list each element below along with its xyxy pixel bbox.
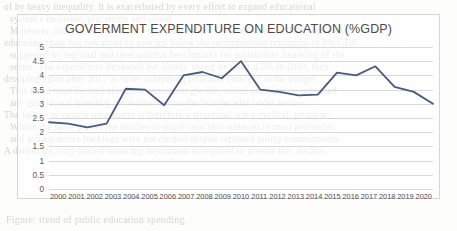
x-axis-tick-label: 2008 [195,191,213,205]
x-axis-tick-label: 2017 [360,191,378,205]
x-axis-tick-label: 2002 [86,191,104,205]
x-axis-tick-label: 2019 [396,191,414,205]
x-axis-tick-label: 2005 [140,191,158,205]
y-axis-tick-label: 1.5 [33,142,44,151]
y-axis-tick-label: 4 [39,71,44,80]
plot-area: 00.511.522.533.544.55 [49,47,433,189]
chart-container: GOVERMENT EXPENDITURE ON EDUCATION (%GDP… [17,14,440,199]
gridline [49,189,433,190]
x-axis-ticks: 2000200120022003200420052006200720082009… [49,191,433,205]
y-axis-tick-label: 2 [39,128,44,137]
y-axis-tick-label: 2.5 [33,114,44,123]
x-axis-tick-label: 2020 [415,191,433,205]
x-axis-tick-label: 2003 [104,191,122,205]
y-axis-tick-label: 3 [39,99,44,108]
x-axis-tick-label: 2004 [122,191,140,205]
x-axis-tick-label: 2010 [232,191,250,205]
y-axis-tick-label: 0 [39,185,44,194]
line-series [49,47,433,189]
x-axis-tick-label: 2016 [342,191,360,205]
x-axis-tick-label: 2012 [268,191,286,205]
x-axis-tick-label: 2015 [323,191,341,205]
x-axis-tick-label: 2014 [305,191,323,205]
y-axis-tick-label: 0.5 [33,170,44,179]
y-axis-tick-label: 4.5 [33,57,44,66]
x-axis-tick-label: 2009 [214,191,232,205]
scanned-text-line: of by heavy inequality. It is exacerbate… [0,2,457,14]
y-axis-tick-label: 5 [39,43,44,52]
x-axis-tick-label: 2000 [49,191,67,205]
x-axis-tick-label: 2001 [67,191,85,205]
y-axis-tick-label: 3.5 [33,85,44,94]
x-axis-tick-label: 2011 [250,191,268,205]
y-axis-tick-label: 1 [39,156,44,165]
x-axis-tick-label: 2006 [159,191,177,205]
chart-title: GOVERMENT EXPENDITURE ON EDUCATION (%GDP… [18,22,439,36]
x-axis-tick-label: 2007 [177,191,195,205]
x-axis-tick-label: 2018 [378,191,396,205]
x-axis-tick-label: 2013 [287,191,305,205]
figure-caption: Figure: trend of public education spendi… [0,214,457,226]
